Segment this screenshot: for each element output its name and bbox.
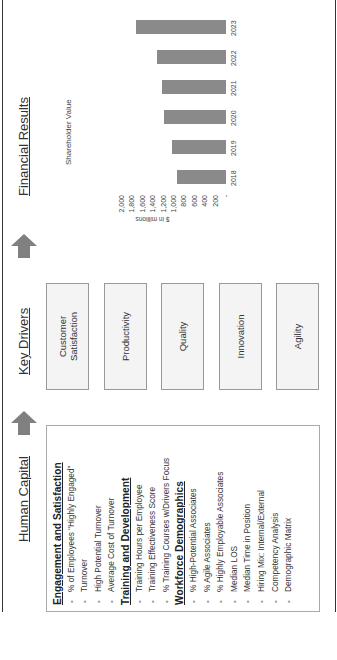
y-tick-label: 1,200 — [160, 195, 167, 223]
y-tick-label: 200 — [212, 195, 219, 223]
key-driver-innovation: Innovation — [219, 283, 262, 390]
key-driver-agility: Agility — [276, 283, 319, 390]
top-rule — [2, 0, 3, 612]
list-item: Competency Analysis — [269, 426, 283, 605]
key-driver-label: Quality — [177, 322, 188, 352]
y-tick-label: 800 — [180, 195, 187, 223]
x-tick-label: 2022 — [230, 50, 237, 66]
financial-results-title: Financial Results — [16, 97, 31, 196]
list-item: % of Employees “Highly Engaged” — [65, 426, 79, 605]
x-tick-label: 2020 — [230, 110, 237, 126]
y-tick-label: 600 — [191, 195, 198, 223]
list-item: High Potential Turnover — [92, 426, 106, 605]
x-tick-label: 2021 — [230, 80, 237, 96]
key-driver-label: Innovation — [235, 315, 246, 359]
y-tick-label: 1,000 — [170, 195, 177, 223]
list-item: Average Cost of Turnover — [105, 426, 119, 605]
y-tick-label: 1,800 — [128, 195, 135, 223]
x-tick-label: 2019 — [230, 140, 237, 156]
shareholder-value-chart: $ in millions Shareholder Value -2004006… — [40, 0, 265, 225]
list-item: % High-Potential Associates — [187, 426, 201, 605]
list-item: % Agile Associates — [201, 426, 215, 605]
arrow-right-icon — [10, 232, 38, 260]
section-heading-engagement: Engagement and Satisfaction — [51, 426, 65, 605]
x-axis-ticks: 201820192020202120222023 — [40, 12, 265, 192]
key-driver-productivity: Productivity — [104, 283, 147, 390]
list-item: % Training Courses w/Drivers Focus — [160, 426, 174, 605]
list-item: Median LOS — [228, 426, 242, 605]
y-tick-label: 400 — [201, 195, 208, 223]
y-axis-ticks: -2004006008001,0001,2001,4001,6001,8002,… — [40, 195, 265, 225]
human-capital-box: Engagement and Satisfaction % of Employe… — [46, 425, 320, 612]
x-tick-label: 2018 — [230, 170, 237, 186]
key-driver-label: Customer Satisfaction — [57, 307, 79, 367]
list-item: Training Effectiveness Score — [146, 426, 160, 605]
list-item: Hiring Mix: Internal/External — [255, 426, 269, 605]
arrow-right-icon — [10, 409, 38, 437]
x-tick-label: 2023 — [230, 20, 237, 36]
key-driver-label: Agility — [292, 324, 303, 349]
section-heading-workforce: Workforce Demographics — [173, 426, 187, 605]
list-item: Demographic Matrix — [282, 426, 296, 605]
section-heading-training: Training and Development — [119, 426, 133, 605]
bottom-rule — [335, 0, 336, 612]
key-drivers-title: Key Drivers — [16, 308, 31, 375]
y-tick-label: 2,000 — [118, 195, 125, 223]
human-capital-title: Human Capital — [16, 456, 31, 542]
list-item: Training Hours per Employee — [133, 426, 147, 605]
key-driver-label: Productivity — [120, 312, 131, 361]
list-item: Turnover — [78, 426, 92, 605]
y-tick-label: - — [222, 195, 229, 223]
key-driver-customer-satisfaction: Customer Satisfaction — [46, 283, 89, 390]
landscape-canvas: Human Capital Key Drivers Financial Resu… — [0, 0, 337, 660]
list-item: Median Time in Position — [241, 426, 255, 605]
y-tick-label: 1,400 — [149, 195, 156, 223]
list-item: % Highly Employable Associates — [214, 426, 228, 605]
y-tick-label: 1,600 — [139, 195, 146, 223]
key-driver-quality: Quality — [161, 283, 204, 390]
